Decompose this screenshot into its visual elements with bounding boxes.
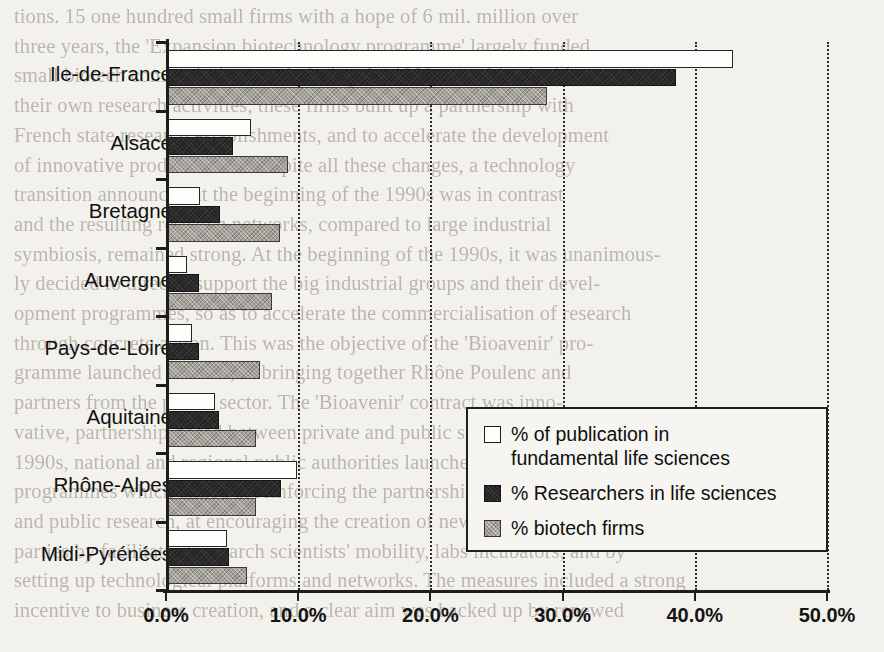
bar — [166, 530, 227, 548]
x-axis-tick-label: 0.0% — [143, 604, 189, 627]
x-axis-tick — [297, 590, 299, 601]
legend-label-publications: % of publication in fundamental life sci… — [511, 422, 730, 470]
x-axis-tick-label: 20.0% — [402, 604, 459, 627]
y-axis-tick — [156, 589, 167, 592]
legend-swatch-researchers — [484, 485, 501, 502]
bar — [166, 498, 256, 516]
bar — [166, 87, 547, 105]
bar-chart: 0.0%10.0%20.0%30.0%40.0%50.0% Ile-de-Fra… — [0, 0, 884, 652]
bar — [166, 50, 733, 68]
bar — [166, 548, 229, 566]
bar — [166, 567, 247, 585]
category-label: Ile-de-France — [50, 62, 172, 86]
bar — [166, 274, 199, 292]
bar — [166, 224, 280, 242]
bar — [166, 137, 233, 155]
x-axis-tick-label: 40.0% — [666, 604, 723, 627]
y-axis-tick — [156, 247, 167, 250]
legend-swatch-publications — [484, 426, 501, 443]
x-axis-tick-label: 10.0% — [270, 604, 327, 627]
bar — [166, 430, 256, 448]
category-label: Bretagne — [89, 199, 172, 223]
x-axis-tick — [562, 590, 564, 601]
y-axis-tick — [156, 110, 167, 113]
bar — [166, 187, 200, 205]
bar — [166, 461, 297, 479]
legend-item-researchers: % Researchers in life sciences — [484, 481, 826, 505]
category-label: Midi-Pyrénées — [41, 542, 172, 566]
bar — [166, 293, 272, 311]
y-axis-tick — [156, 384, 167, 387]
gridline — [430, 42, 432, 590]
legend-swatch-biotech-firms — [484, 520, 501, 537]
y-axis-tick — [156, 315, 167, 318]
category-label: Pays-de-Loire — [44, 336, 172, 360]
chart-legend: % of publication in fundamental life sci… — [466, 407, 828, 552]
legend-label-biotech-firms: % biotech firms — [511, 516, 644, 540]
bar — [166, 206, 220, 224]
bar — [166, 480, 281, 498]
legend-item-publications: % of publication in fundamental life sci… — [484, 422, 826, 470]
bar — [166, 411, 219, 429]
x-axis-line — [163, 590, 830, 593]
category-label: Rhône-Alpes — [53, 473, 172, 497]
gridline — [298, 42, 300, 590]
bar — [166, 156, 288, 174]
category-label: Alsace — [110, 131, 172, 155]
bar — [166, 69, 676, 87]
y-axis-tick — [156, 452, 167, 455]
category-label: Aquitaine — [87, 405, 172, 429]
y-axis-tick — [156, 41, 167, 44]
x-axis-tick — [694, 590, 696, 601]
bar — [166, 119, 251, 137]
bar — [166, 256, 187, 274]
bar — [166, 324, 192, 342]
legend-item-biotech-firms: % biotech firms — [484, 516, 826, 540]
bar — [166, 393, 215, 411]
bar — [166, 361, 260, 379]
y-axis-tick — [156, 521, 167, 524]
bar — [166, 343, 199, 361]
x-axis-tick-label: 50.0% — [799, 604, 856, 627]
x-axis-tick — [826, 590, 828, 601]
category-label: Auvergne — [84, 268, 172, 292]
y-axis-tick — [156, 178, 167, 181]
x-axis-tick-label: 30.0% — [534, 604, 591, 627]
x-axis-tick — [429, 590, 431, 601]
legend-label-researchers: % Researchers in life sciences — [511, 481, 777, 505]
